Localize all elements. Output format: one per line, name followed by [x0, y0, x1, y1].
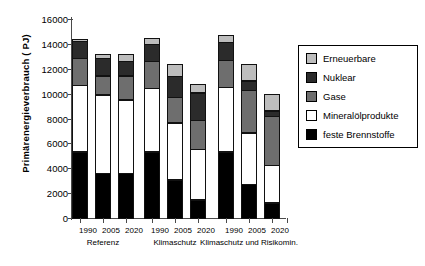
x-axis-tick-mark [175, 218, 176, 223]
y-axis-tick-label: 2000 [47, 189, 68, 198]
x-axis-tick-mark [126, 218, 127, 223]
bar-segment-gas [144, 61, 160, 89]
x-axis-tick-mark [152, 218, 153, 223]
legend-item: Erneuerbare [306, 53, 411, 64]
bar-segment-gas [264, 116, 280, 166]
bar-segment-gas [241, 90, 257, 134]
y-axis-title: Primärenergieverbrauch ( PJ) [20, 9, 31, 199]
y-axis-tick-label: 6000 [47, 139, 68, 148]
bar-2020-Referenz [118, 54, 134, 218]
legend-item: Nuklear [306, 72, 411, 83]
bar-segment-renew [264, 94, 280, 111]
legend-item-label: Gase [323, 92, 346, 102]
x-axis-year-label: 2020 [191, 226, 221, 235]
chart-legend: ErneuerbareNuklearGaseMineralölproduktef… [298, 45, 418, 148]
bar-2020-Klimaschutz und Risikomin. [264, 94, 280, 218]
bar-1990-Klimaschutz [144, 38, 160, 218]
x-axis-tick-mark [249, 218, 250, 223]
legend-swatch-icon [306, 110, 317, 121]
bar-segment-gas [95, 76, 111, 96]
plot-area: 1600014000120001000080006000400020000 [72, 19, 284, 218]
bar-segment-solid [167, 180, 183, 219]
bar-segment-gas [72, 58, 88, 86]
bar-2005-Referenz [95, 54, 111, 218]
x-axis-tick-mark [103, 218, 104, 223]
legend-swatch-icon [306, 129, 317, 140]
bar-segment-solid [95, 173, 111, 219]
legend-item: feste Brennstoffe [306, 129, 411, 140]
x-axis-year-label: 2020 [265, 226, 295, 235]
bar-segment-renew [167, 64, 183, 76]
bar-segment-nuke [167, 76, 183, 98]
legend-item-label: Nuklear [323, 73, 356, 83]
bar-segment-nuke [118, 61, 134, 77]
x-axis-tick-mark [80, 218, 81, 223]
bar-segment-oil [167, 123, 183, 181]
bar-segment-gas [118, 76, 134, 101]
bar-segment-solid [118, 173, 134, 219]
legend-item: Mineralölprodukte [306, 110, 411, 121]
bar-2005-Klimaschutz und Risikomin. [241, 64, 257, 218]
x-axis-tick-mark [272, 218, 273, 223]
y-axis-tick-mark [68, 19, 73, 20]
bar-segment-solid [190, 200, 206, 219]
legend-item-label: feste Brennstoffe [323, 130, 395, 140]
x-axis-tick-mark [287, 218, 288, 223]
y-axis-tick-label: 8000 [47, 114, 68, 123]
bar-segment-renew [241, 64, 257, 81]
bar-segment-oil [95, 95, 111, 174]
bar-segment-nuke [144, 44, 160, 62]
bar-segment-gas [167, 97, 183, 123]
bar-segment-gas [218, 60, 234, 88]
bar-segment-oil [118, 100, 134, 174]
bar-segment-gas [190, 120, 206, 149]
y-axis-tick-label: 16000 [42, 15, 68, 24]
bar-segment-oil [144, 88, 160, 152]
chart-figure: Primärenergieverbrauch ( PJ) 16000140001… [0, 0, 425, 266]
bar-segment-oil [72, 85, 88, 152]
legend-swatch-icon [306, 53, 317, 64]
bar-segment-oil [218, 87, 234, 152]
y-axis-tick-label: 14000 [42, 39, 68, 48]
bar-segment-solid [264, 203, 280, 219]
bar-segment-nuke [95, 58, 111, 76]
legend-swatch-icon [306, 91, 317, 102]
bar-segment-solid [72, 152, 88, 219]
y-axis-tick-label: 12000 [42, 64, 68, 73]
bar-segment-solid [241, 184, 257, 219]
legend-item-label: Erneuerbare [323, 54, 376, 64]
bar-segment-nuke [218, 42, 234, 61]
bar-2020-Klimaschutz [190, 84, 206, 218]
bar-segment-oil [264, 165, 280, 204]
y-axis-tick-label: 10000 [42, 89, 68, 98]
bar-1990-Referenz [72, 39, 88, 218]
bar-segment-solid [218, 152, 234, 219]
legend-item: Gase [306, 91, 411, 102]
x-axis-tick-mark [226, 218, 227, 223]
x-axis-group-label: Klimaschutz und Risikomin. [189, 238, 309, 247]
bar-1990-Klimaschutz und Risikomin. [218, 35, 234, 218]
bar-segment-nuke [190, 93, 206, 122]
bar-2005-Klimaschutz [167, 64, 183, 218]
bar-segment-oil [190, 149, 206, 201]
legend-swatch-icon [306, 72, 317, 83]
bar-segment-solid [144, 152, 160, 219]
legend-item-label: Mineralölprodukte [323, 111, 399, 121]
x-axis-tick-mark [198, 218, 199, 223]
y-axis-tick-label: 4000 [47, 164, 68, 173]
bar-segment-nuke [72, 41, 88, 59]
bar-segment-oil [241, 133, 257, 185]
